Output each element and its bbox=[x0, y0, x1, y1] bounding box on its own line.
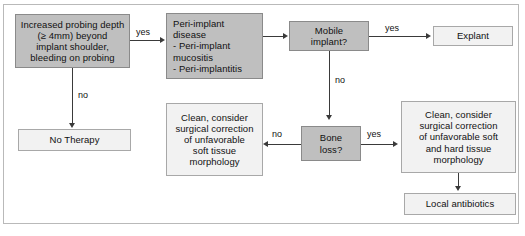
edge-clean-to-local-antibiotics bbox=[458, 173, 459, 187]
edge-label-mobile-yes: yes bbox=[385, 23, 399, 33]
edge-bone-loss-to-clean-soft bbox=[268, 144, 301, 145]
node-explant: Explant bbox=[433, 26, 513, 46]
edge-mobile-to-bone-loss bbox=[329, 51, 330, 116]
node-bone-loss: Bone loss? bbox=[301, 126, 361, 161]
node-clean-soft-hard-tissue: Clean, consider surgical correction of u… bbox=[401, 101, 516, 173]
node-increased-probing-depth: Increased probing depth (≥ 4mm) beyond i… bbox=[15, 14, 130, 68]
arrowhead-bone-loss-to-clean-soft bbox=[263, 141, 268, 147]
node-local-antibiotics: Local antibiotics bbox=[404, 193, 516, 215]
edge-label-bone-yes: yes bbox=[367, 129, 381, 139]
edge-label-mobile-no: no bbox=[335, 75, 345, 85]
arrowhead-mobile-to-explant bbox=[426, 33, 431, 39]
edge-probing-to-no-therapy bbox=[72, 68, 73, 124]
node-no-therapy: No Therapy bbox=[18, 129, 131, 151]
arrowhead-probing-to-no-therapy bbox=[69, 123, 75, 128]
flowchart-canvas: Increased probing depth (≥ 4mm) beyond i… bbox=[0, 0, 525, 236]
node-mobile-implant-label: Mobile implant? bbox=[290, 25, 368, 47]
arrowhead-bone-loss-to-clean-soft-hard bbox=[393, 141, 398, 147]
node-clean-soft-tissue-label: Clean, consider surgical correction of u… bbox=[167, 112, 262, 167]
node-no-therapy-label: No Therapy bbox=[19, 134, 130, 145]
arrowhead-clean-to-local-antibiotics bbox=[455, 186, 461, 191]
node-increased-probing-depth-label: Increased probing depth (≥ 4mm) beyond i… bbox=[16, 19, 129, 63]
node-explant-label: Explant bbox=[434, 30, 512, 41]
edge-disease-to-mobile bbox=[263, 36, 284, 37]
node-bone-loss-label: Bone loss? bbox=[302, 132, 360, 154]
arrowhead-disease-to-mobile bbox=[283, 33, 288, 39]
node-mobile-implant: Mobile implant? bbox=[289, 21, 369, 51]
edge-label-probing-no: no bbox=[78, 90, 88, 100]
node-peri-implant-disease-label: Peri-implant disease - Peri-implant muco… bbox=[167, 18, 262, 73]
edge-probing-to-disease bbox=[130, 40, 161, 41]
node-peri-implant-disease: Peri-implant disease - Peri-implant muco… bbox=[166, 13, 263, 79]
arrowhead-probing-to-disease bbox=[160, 37, 165, 43]
diagram-frame: Increased probing depth (≥ 4mm) beyond i… bbox=[3, 4, 519, 224]
node-clean-soft-tissue: Clean, consider surgical correction of u… bbox=[166, 103, 263, 176]
node-clean-soft-hard-tissue-label: Clean, consider surgical correction of u… bbox=[402, 109, 515, 164]
edge-mobile-to-explant bbox=[369, 36, 427, 37]
edge-label-probing-yes: yes bbox=[136, 27, 150, 37]
arrowhead-mobile-to-bone-loss bbox=[326, 115, 332, 120]
edge-label-bone-no: no bbox=[272, 129, 282, 139]
edge-bone-loss-to-clean-soft-hard bbox=[361, 144, 394, 145]
node-local-antibiotics-label: Local antibiotics bbox=[405, 198, 515, 209]
